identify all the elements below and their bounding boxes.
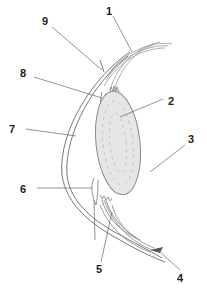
label-2: 2 [168, 96, 174, 107]
eye-lens-diagram [0, 0, 207, 293]
upper-fibres [104, 42, 172, 92]
lens [91, 89, 146, 197]
label-9: 9 [42, 16, 48, 27]
label-8: 8 [20, 68, 26, 79]
label-3: 3 [188, 134, 194, 145]
label-7: 7 [9, 124, 15, 135]
label-4: 4 [177, 273, 183, 284]
label-6: 6 [20, 184, 26, 195]
label-5: 5 [96, 264, 102, 275]
label-1: 1 [106, 6, 112, 17]
